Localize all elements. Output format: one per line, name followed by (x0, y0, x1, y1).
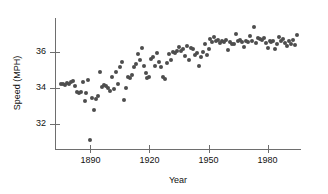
y-tick-label-text: 32 (24, 119, 46, 128)
data-point (153, 64, 157, 68)
data-point (118, 65, 122, 69)
x-tick-label: 1920 (129, 156, 169, 165)
data-point (157, 60, 161, 64)
data-point (183, 54, 187, 58)
data-point (88, 138, 92, 142)
data-point (132, 65, 136, 69)
data-point (264, 41, 268, 45)
data-point (195, 51, 199, 55)
data-point (201, 50, 205, 54)
data-point (169, 58, 173, 62)
scatter-plot: 323436 1890192019501980 Speed (MPH) Year (0, 0, 328, 194)
data-point (295, 33, 299, 37)
data-point (114, 70, 118, 74)
data-point (203, 42, 207, 46)
data-point (71, 79, 75, 83)
y-tick-label-text: 34 (24, 83, 46, 92)
data-point (92, 108, 96, 112)
data-point (86, 78, 90, 82)
data-point (234, 32, 238, 36)
x-tick-1920 (149, 145, 150, 153)
data-point (73, 84, 77, 88)
y-tick-label: 32 (24, 119, 46, 128)
y-tick-34 (50, 88, 60, 89)
data-point (147, 75, 151, 79)
x-tick-label: 1890 (70, 156, 110, 165)
data-point (130, 73, 134, 77)
data-point (122, 98, 126, 102)
data-point (262, 36, 266, 40)
data-point (136, 52, 140, 56)
data-point (207, 47, 211, 51)
data-point (144, 71, 148, 75)
data-point (134, 62, 138, 66)
data-point (151, 55, 155, 59)
y-tick-label-text: 36 (24, 47, 46, 56)
data-point (226, 48, 230, 52)
data-point (252, 25, 256, 29)
data-point (205, 53, 209, 57)
data-point (187, 58, 191, 62)
y-tick-36 (50, 52, 60, 53)
y-tick-label: 36 (24, 47, 46, 56)
data-point (254, 41, 258, 45)
data-point (98, 70, 102, 74)
data-point (79, 90, 83, 94)
data-point (191, 47, 195, 51)
data-point (291, 38, 295, 42)
data-point (138, 58, 142, 62)
data-point (248, 34, 252, 38)
data-point (120, 60, 124, 64)
data-point (110, 75, 114, 79)
x-tick-1950 (209, 145, 210, 153)
data-point (142, 64, 146, 68)
x-tick-1890 (90, 145, 91, 153)
data-point (242, 45, 246, 49)
x-tick-label: 1980 (248, 156, 288, 165)
data-point (159, 65, 163, 69)
data-point (266, 46, 270, 50)
y-axis-title: Speed (MPH) (12, 38, 22, 128)
data-point (165, 61, 169, 65)
data-point (293, 43, 297, 47)
data-point (155, 51, 159, 55)
data-point (232, 42, 236, 46)
data-point (197, 64, 201, 68)
data-point (275, 42, 279, 46)
data-point (116, 82, 120, 86)
data-point (81, 80, 85, 84)
data-point (96, 94, 100, 98)
data-point (199, 55, 203, 59)
data-point (140, 46, 144, 50)
x-tick-label: 1950 (189, 156, 229, 165)
x-tick-1980 (268, 145, 269, 153)
data-point (181, 47, 185, 51)
data-point (128, 76, 132, 80)
data-point (163, 77, 167, 81)
y-axis-line (55, 18, 56, 150)
data-point (112, 87, 116, 91)
data-point (124, 86, 128, 90)
x-axis-title: Year (55, 175, 301, 185)
data-point (83, 99, 87, 103)
data-point (273, 47, 277, 51)
x-axis-line (55, 149, 301, 150)
y-tick-label: 34 (24, 83, 46, 92)
y-tick-32 (50, 124, 60, 125)
data-point (281, 37, 285, 41)
data-point (84, 91, 88, 95)
